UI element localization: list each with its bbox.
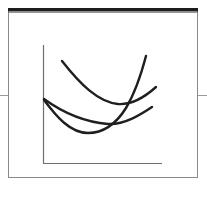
- outer-frame: [9, 10, 198, 178]
- frame-top-bar: [8, 8, 198, 12]
- diagram-canvas: [0, 0, 207, 210]
